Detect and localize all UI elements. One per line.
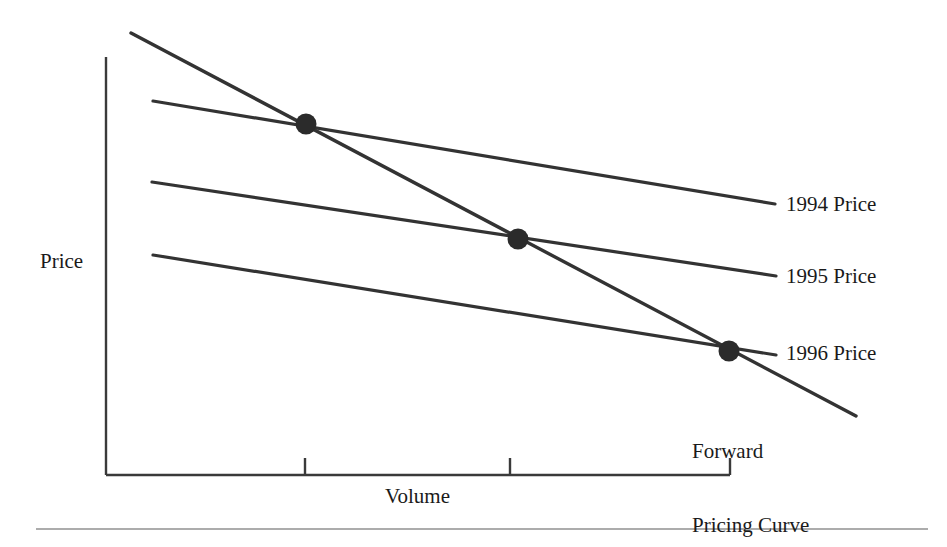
series-line-1996-price bbox=[153, 255, 776, 355]
intersection-marker-1994 bbox=[296, 114, 317, 135]
forward-label-line-2: Pricing Curve bbox=[692, 513, 809, 538]
series-label-1995-price: 1995 Price bbox=[786, 264, 876, 289]
intersection-marker-1996 bbox=[719, 341, 740, 362]
intersection-marker-1995 bbox=[508, 229, 529, 250]
series-label-forward-pricing-curve: Forward Pricing Curve bbox=[692, 389, 809, 547]
series-label-1996-price: 1996 Price bbox=[786, 341, 876, 366]
forward-label-line-1: Forward bbox=[692, 439, 809, 464]
figure-container: Price Volume 1994 Price 1995 Price 1996 … bbox=[0, 0, 947, 547]
series-label-1994-price: 1994 Price bbox=[786, 192, 876, 217]
series-line-1995-price bbox=[152, 182, 776, 276]
series-line-forward-pricing-curve bbox=[131, 33, 856, 416]
series-line-1994-price bbox=[153, 101, 775, 204]
x-axis-label: Volume bbox=[385, 484, 450, 509]
y-axis-label: Price bbox=[40, 249, 83, 274]
